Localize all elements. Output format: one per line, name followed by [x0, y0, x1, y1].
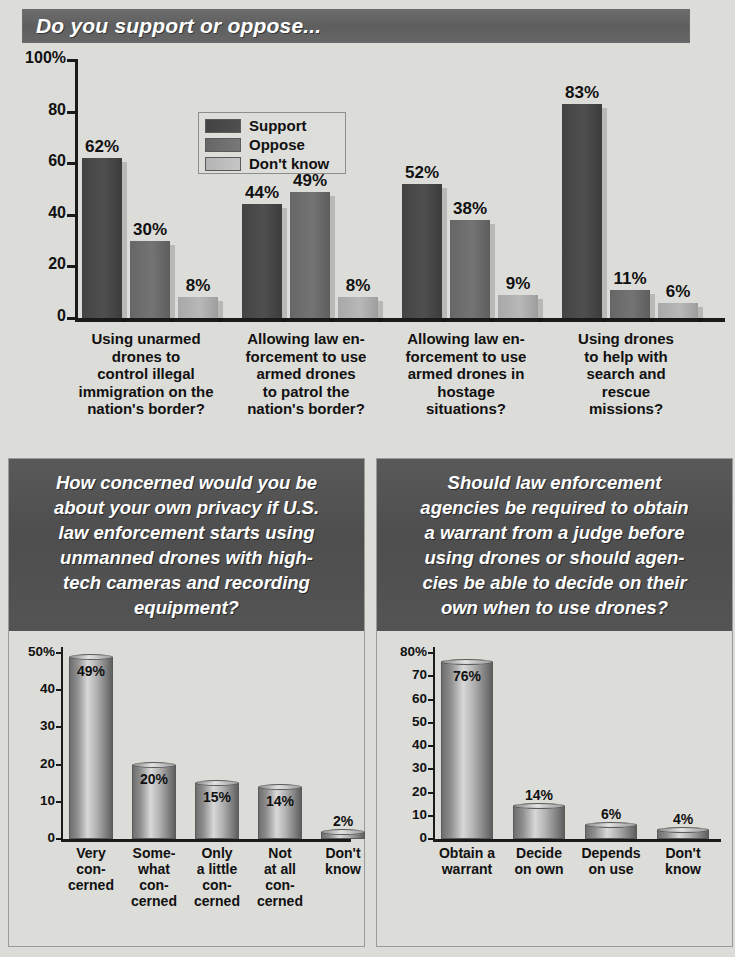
category-label: Onlya littlecon-cerned	[186, 845, 249, 909]
bar-top-ellipse	[441, 659, 493, 665]
bar-shadow	[602, 108, 607, 322]
y-axis-tick	[428, 792, 435, 794]
bar	[498, 295, 538, 318]
header-bar: Do you support or oppose...	[22, 9, 690, 43]
y-axis-tick	[56, 689, 63, 691]
y-axis-tick	[428, 768, 435, 770]
bar-top-ellipse	[258, 784, 302, 790]
y-axis-tick-label: 20	[385, 784, 427, 799]
bar	[450, 220, 490, 318]
y-axis-tick-label: 50%	[13, 644, 55, 659]
y-axis-tick-label: 20	[10, 255, 66, 273]
chart-legend: Support Oppose Don't know	[198, 112, 346, 174]
bar-value-label: 8%	[330, 276, 386, 296]
bar	[402, 184, 442, 318]
y-axis-tick-label: 40	[13, 681, 55, 696]
category-label: Allowing law en-forcement to usearmed dr…	[228, 330, 384, 418]
bar-value-label: 83%	[554, 83, 610, 103]
bar	[338, 297, 378, 318]
bar-value-label: 4%	[647, 811, 719, 827]
category-label: Obtain awarrant	[431, 845, 503, 877]
bar	[562, 104, 602, 318]
bar-value-label: 6%	[650, 282, 706, 302]
category-label: Dependson use	[575, 845, 647, 877]
panel-title: How concerned would you beabout your own…	[40, 470, 333, 620]
bar-value-label: 62%	[74, 137, 130, 157]
bar-value-label: 9%	[490, 274, 546, 294]
legend-swatch-icon	[205, 138, 241, 152]
x-axis-line	[61, 839, 351, 842]
y-axis-line	[75, 60, 78, 320]
y-axis-tick	[67, 111, 78, 114]
y-axis-tick	[428, 745, 435, 747]
category-label: Using dronesto help withsearch andrescue…	[548, 330, 704, 418]
panel-header: Should law enforcementagencies be requir…	[377, 459, 732, 631]
category-label: Don'tknow	[312, 845, 375, 877]
bar-value-label: 38%	[442, 199, 498, 219]
legend-swatch-icon	[205, 157, 241, 171]
panel-chart-area: 01020304050607080%76%Obtain awarrant14%D…	[377, 631, 732, 946]
y-axis-tick-label: 20	[13, 756, 55, 771]
bar-value-label: 2%	[311, 813, 375, 829]
panel-chart-area: 01020304050%49%Verycon-cerned20%Some-wha…	[9, 631, 364, 946]
y-axis-tick	[56, 726, 63, 728]
bar-top-ellipse	[69, 654, 113, 660]
bar	[657, 830, 709, 839]
y-axis-tick	[67, 162, 78, 165]
y-axis-tick-label: 30	[13, 718, 55, 733]
y-axis-tick	[67, 214, 78, 217]
bar-shadow	[538, 299, 543, 322]
bar-value-label: 76%	[431, 668, 503, 684]
category-label: Some-whatcon-cerned	[123, 845, 186, 909]
y-axis-tick	[67, 265, 78, 268]
y-axis-tick	[428, 699, 435, 701]
bar	[585, 825, 637, 839]
bar	[82, 158, 122, 318]
page-title: Do you support or oppose...	[36, 14, 321, 38]
bar-top-ellipse	[195, 780, 239, 786]
panel-title: Should law enforcementagencies be requir…	[406, 470, 702, 620]
y-axis-tick	[56, 801, 63, 803]
bar-value-label: 49%	[59, 663, 123, 679]
bar	[130, 241, 170, 318]
bar-value-label: 30%	[122, 220, 178, 240]
y-axis-tick-label: 80%	[385, 644, 427, 659]
bar-top-ellipse	[132, 762, 176, 768]
category-label: Allowing law en-forcement to usearmed dr…	[388, 330, 544, 418]
y-axis-tick-label: 0	[385, 830, 427, 845]
bar-shadow	[282, 208, 287, 322]
category-label: Notat allcon-cerned	[249, 845, 312, 909]
category-label: Decideon own	[503, 845, 575, 877]
bar	[242, 204, 282, 318]
bar-top-ellipse	[321, 829, 365, 835]
bar	[658, 303, 698, 318]
bar-shadow	[218, 301, 223, 322]
bar-shadow	[698, 307, 703, 322]
y-axis-tick-label: 10	[13, 793, 55, 808]
y-axis-tick-label: 60	[385, 691, 427, 706]
y-axis-tick	[428, 722, 435, 724]
y-axis-tick-label: 60	[10, 152, 66, 170]
bar-value-label: 20%	[122, 771, 186, 787]
category-label: Using unarmeddrones tocontrol illegalimm…	[68, 330, 224, 418]
bar-value-label: 52%	[394, 163, 450, 183]
y-axis-tick-label: 70	[385, 667, 427, 682]
bar-shadow	[122, 162, 127, 322]
bar-value-label: 14%	[503, 787, 575, 803]
y-axis-tick-label: 0	[13, 830, 55, 845]
legend-label: Don't know	[249, 155, 329, 172]
y-axis-tick-label: 10	[385, 807, 427, 822]
y-axis-tick-label: 30	[385, 760, 427, 775]
bar	[610, 290, 650, 318]
bar	[69, 657, 113, 839]
bar-value-label: 8%	[170, 276, 226, 296]
bar	[178, 297, 218, 318]
y-axis-tick-label: 100%	[10, 49, 66, 67]
panel-privacy-concern: How concerned would you beabout your own…	[8, 458, 365, 947]
legend-item-dont-know: Don't know	[205, 154, 339, 173]
legend-swatch-icon	[205, 119, 241, 133]
y-axis-tick	[428, 838, 435, 840]
bar-shadow	[330, 196, 335, 322]
bar	[513, 806, 565, 839]
y-axis-tick	[56, 838, 63, 840]
